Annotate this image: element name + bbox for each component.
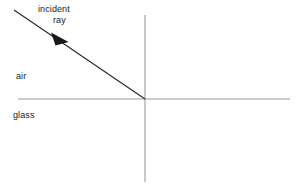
incident-ray-line	[14, 10, 145, 99]
air-medium-label: air	[16, 71, 26, 81]
optics-diagram-canvas	[0, 0, 301, 187]
incident-ray-label-line1: incident	[38, 4, 70, 14]
arrowhead-icon	[51, 33, 69, 46]
incident-ray-label-line2: ray	[53, 15, 66, 25]
optics-diagram: incident ray air glass	[0, 0, 301, 187]
glass-medium-label: glass	[13, 110, 35, 120]
